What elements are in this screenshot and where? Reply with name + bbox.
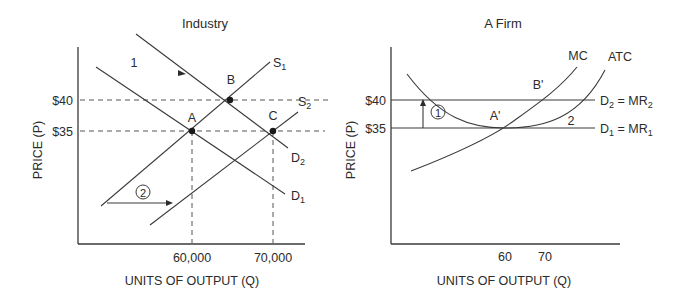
industry-x-tick-60000: 60,000	[173, 251, 211, 265]
chart-svg: Industry A B C 1 2 S1 S2 D2 D1	[0, 0, 690, 306]
industry-d2-label: D2	[291, 151, 305, 167]
industry-point-a-label: A	[188, 111, 197, 125]
industry-point-c-marker	[270, 128, 276, 134]
industry-s2-label: S2	[298, 95, 311, 111]
industry-point-b-label: B	[227, 73, 235, 87]
firm-mc-label: MC	[568, 49, 587, 63]
firm-title: A Firm	[484, 16, 522, 31]
firm-y-tick-35: $35	[365, 122, 386, 136]
firm-d2-mr2-label: D2 = MR2	[600, 94, 653, 110]
industry-point-b-marker	[227, 97, 233, 103]
industry-supply-shift-arrowhead-icon	[166, 200, 173, 206]
industry-point-a-marker	[189, 128, 195, 134]
firm-d1-mr1-label: D1 = MR1	[600, 122, 653, 138]
industry-s1-curve	[101, 62, 270, 206]
industry-y-tick-35: $35	[52, 125, 73, 139]
firm-point-b-prime-label: B'	[533, 78, 544, 92]
industry-s1-label: S1	[273, 56, 286, 72]
industry-s2-curve	[150, 112, 298, 225]
firm-chart: A Firm 1 A' B' 2 MC ATC D2 = MR2 D1 = MR…	[344, 16, 653, 288]
industry-y-axis-label: PRICE (P)	[31, 121, 45, 179]
firm-y-axis-label: PRICE (P)	[344, 121, 358, 179]
firm-step-1-label: 1	[435, 107, 441, 119]
industry-point-c-label: C	[268, 109, 277, 123]
industry-x-axis-label: UNITS OF OUTPUT (Q)	[125, 274, 260, 288]
firm-x-tick-60: 60	[498, 250, 512, 264]
firm-step-2-label: 2	[568, 114, 575, 128]
firm-y-tick-40: $40	[365, 94, 386, 108]
firm-atc-label: ATC	[608, 50, 632, 64]
industry-chart: Industry A B C 1 2 S1 S2 D2 D1	[31, 16, 330, 288]
industry-step-1-label: 1	[131, 56, 138, 70]
industry-y-tick-40: $40	[52, 94, 73, 108]
industry-d1-label: D1	[291, 189, 305, 205]
industry-step-2-label: 2	[140, 187, 146, 199]
industry-x-tick-70000: 70,000	[254, 251, 292, 265]
industry-d2-curve	[136, 34, 288, 148]
chart-figure: Industry A B C 1 2 S1 S2 D2 D1	[0, 0, 690, 306]
firm-x-axis-label: UNITS OF OUTPUT (Q)	[437, 274, 572, 288]
industry-title: Industry	[182, 16, 229, 31]
firm-x-tick-70: 70	[538, 250, 552, 264]
firm-point-a-prime-label: A'	[490, 109, 501, 123]
